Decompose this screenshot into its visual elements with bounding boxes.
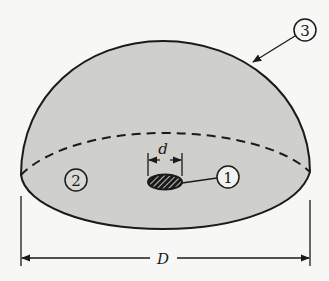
callout-1-label: 1 xyxy=(223,169,233,187)
callout-3-leader xyxy=(253,36,295,62)
diagram-svg: d 1 2 3 D xyxy=(0,0,329,281)
callout-2-label: 2 xyxy=(71,172,81,190)
orifice-hole xyxy=(148,175,182,190)
callout-3-label: 3 xyxy=(300,22,310,40)
dimension-label-d: d xyxy=(158,140,168,158)
hemisphere-body xyxy=(21,41,310,229)
hemisphere-diagram: d 1 2 3 D xyxy=(0,0,329,281)
dimension-label-D: D xyxy=(156,250,169,268)
